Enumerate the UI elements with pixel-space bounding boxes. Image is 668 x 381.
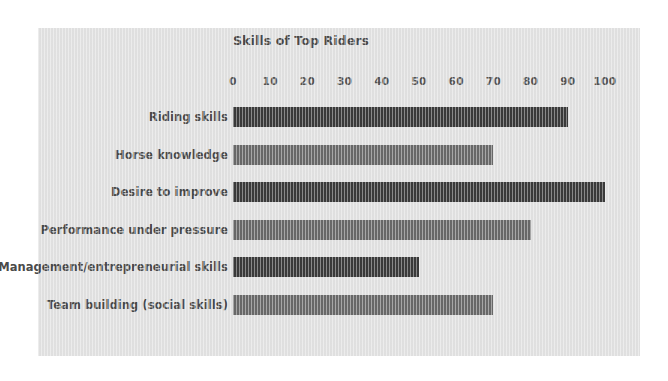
x-tick-90: 90 — [560, 75, 575, 87]
plot-area: Riding skillsHorse knowledgeDesire to im… — [38, 105, 640, 345]
x-axis-tick-labels: 0102030405060708090100 — [233, 75, 605, 91]
bar-row: Desire to improve — [38, 182, 640, 202]
category-label: Team building (social skills) — [47, 298, 228, 312]
bar-row: Riding skills — [38, 107, 640, 127]
bar — [233, 220, 531, 240]
x-tick-30: 30 — [337, 75, 352, 87]
bar-row: Team building (social skills) — [38, 295, 640, 315]
bar — [233, 145, 493, 165]
chart-title: Skills of Top Riders — [233, 33, 369, 48]
category-label: Performance under pressure — [41, 223, 228, 237]
bar — [233, 257, 419, 277]
bar-row: Management/entrepreneurial skills — [38, 257, 640, 277]
bar — [233, 107, 568, 127]
x-tick-50: 50 — [411, 75, 426, 87]
x-tick-100: 100 — [594, 75, 617, 87]
category-label: Management/entrepreneurial skills — [0, 260, 228, 274]
x-tick-20: 20 — [300, 75, 315, 87]
x-tick-60: 60 — [449, 75, 464, 87]
x-tick-80: 80 — [523, 75, 538, 87]
chart-panel: Skills of Top Riders 0102030405060708090… — [38, 28, 640, 356]
x-tick-70: 70 — [486, 75, 501, 87]
bar-row: Horse knowledge — [38, 145, 640, 165]
x-tick-10: 10 — [263, 75, 278, 87]
bar — [233, 182, 605, 202]
x-tick-0: 0 — [229, 75, 237, 87]
bar-row: Performance under pressure — [38, 220, 640, 240]
chart-screenshot: Skills of Top Riders 0102030405060708090… — [0, 0, 668, 381]
category-label: Desire to improve — [111, 185, 228, 199]
x-tick-40: 40 — [374, 75, 389, 87]
bar — [233, 295, 493, 315]
category-label: Horse knowledge — [115, 148, 228, 162]
category-label: Riding skills — [149, 110, 228, 124]
